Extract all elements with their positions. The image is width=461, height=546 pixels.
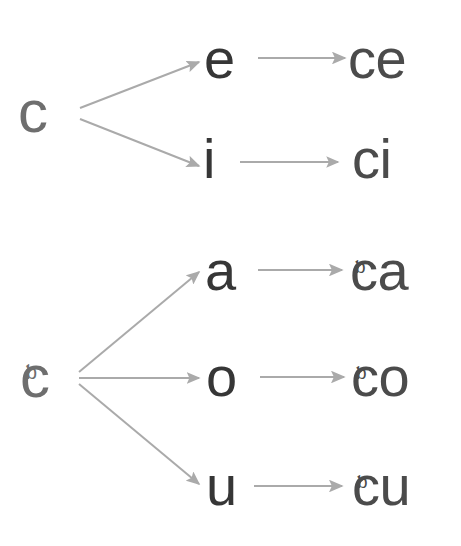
cedilla-mark: ƅ <box>26 363 37 383</box>
source-letter-c-cedilla: c ƅ <box>20 347 50 407</box>
arrow-cedilla-to-u <box>79 384 199 484</box>
result-syllable-cu: cu ƅ <box>352 458 410 514</box>
cedilla-mark: ƅ <box>356 364 366 382</box>
vowel-letter-u: u <box>206 458 237 514</box>
vowel-letter-o: o <box>206 349 237 405</box>
vowel-letter-a: a <box>205 243 236 299</box>
cedilla-mark: ƅ <box>357 473 367 491</box>
result-syllable-co: co ƅ <box>351 349 409 405</box>
result-syllable-ci: ci <box>352 131 391 187</box>
arrow-c-to-e <box>80 62 199 108</box>
result-syllable-ce: ce <box>348 31 406 87</box>
result-syllable-ca: ca ƅ <box>350 243 408 299</box>
diagram-canvas: c e ce i ci c ƅ a ca ƅ o co ƅ u <box>0 0 461 546</box>
vowel-letter-i: i <box>203 131 215 187</box>
source-letter-c: c <box>18 82 48 142</box>
arrow-cedilla-to-a <box>79 272 199 372</box>
vowel-letter-e: e <box>204 31 235 87</box>
cedilla-mark: ƅ <box>355 258 365 276</box>
arrow-c-to-i <box>80 119 199 166</box>
